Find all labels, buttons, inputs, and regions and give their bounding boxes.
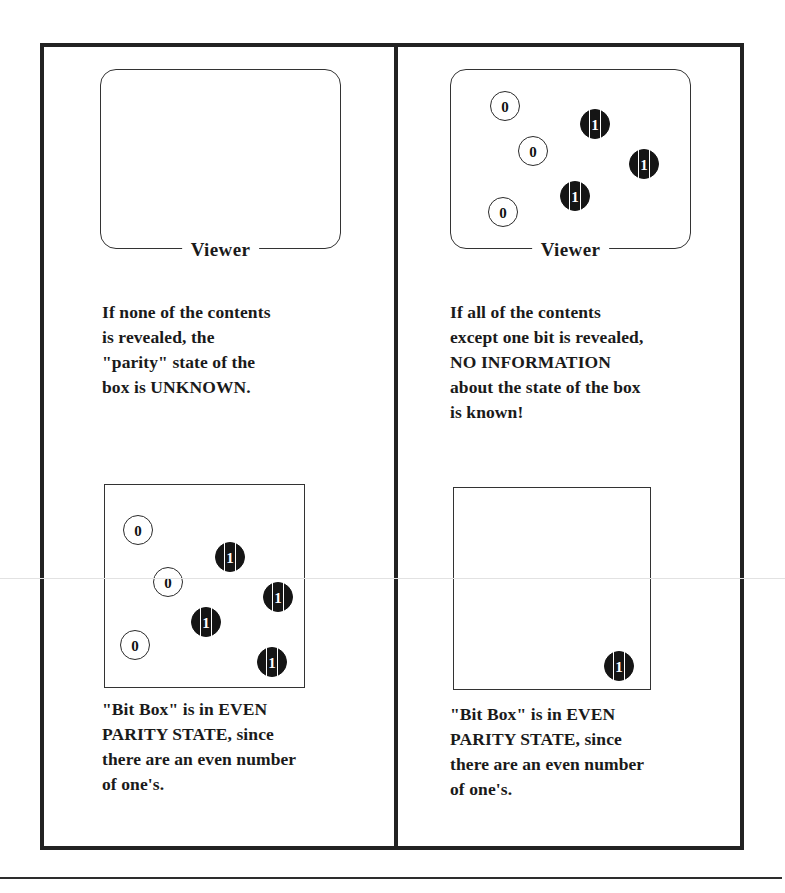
bit-value-label: 0 — [134, 523, 142, 539]
bit-value-label: 0 — [529, 144, 537, 160]
bit-token-one: 1 — [580, 109, 610, 139]
viewer-label: Viewer — [532, 240, 610, 260]
left-panel: Viewer If none of the contents is reveal… — [44, 47, 394, 846]
bit-token-one: 1 — [257, 647, 287, 677]
bit-token-one: 1 — [604, 651, 634, 681]
viewer-bit-container: 010110 — [450, 69, 691, 249]
bit-token-zero: 0 — [518, 136, 548, 166]
bit-value-label: 0 — [164, 575, 172, 591]
bit-value-label: 0 — [499, 205, 507, 221]
left-explanation-text: If none of the contents is revealed, the… — [102, 300, 372, 400]
bit-token-one: 1 — [560, 181, 590, 211]
bit-value-label: 1 — [200, 608, 212, 638]
bit-token-zero: 0 — [120, 630, 150, 660]
bit-value-label: 1 — [569, 182, 581, 212]
left-bitbox-caption: "Bit Box" is in EVEN PARITY STATE, since… — [102, 697, 392, 797]
bit-value-label: 1 — [613, 652, 625, 682]
bit-value-label: 1 — [272, 583, 284, 613]
bottom-horizontal-rule — [0, 877, 782, 879]
bit-value-label: 1 — [589, 110, 601, 140]
right-bitbox-caption: "Bit Box" is in EVEN PARITY STATE, since… — [450, 702, 745, 802]
viewer-bit-container — [100, 69, 341, 249]
bit-token-one: 1 — [215, 542, 245, 572]
bit-value-label: 0 — [501, 99, 509, 115]
bit-token-one: 1 — [263, 582, 293, 612]
right-panel: 010110 Viewer If all of the contents exc… — [398, 47, 744, 846]
bit-value-label: 1 — [224, 543, 236, 573]
diagram-frame: Viewer If none of the contents is reveal… — [40, 43, 744, 850]
bit-token-zero: 0 — [153, 567, 183, 597]
bit-token-one: 1 — [191, 607, 221, 637]
bit-value-label: 1 — [266, 648, 278, 678]
bit-value-label: 0 — [131, 638, 139, 654]
right-explanation-text: If all of the contents except one bit is… — [450, 300, 740, 425]
bit-token-zero: 0 — [490, 91, 520, 121]
viewer-right: 010110 Viewer — [450, 69, 691, 249]
bit-token-zero: 0 — [488, 197, 518, 227]
viewer-label: Viewer — [182, 240, 260, 260]
bit-token-one: 1 — [629, 149, 659, 179]
bitbox-left: 0101101 — [104, 484, 305, 688]
bit-token-zero: 0 — [123, 515, 153, 545]
bit-value-label: 1 — [638, 150, 650, 180]
viewer-left: Viewer — [100, 69, 341, 249]
bitbox-right: 1 — [453, 487, 651, 690]
